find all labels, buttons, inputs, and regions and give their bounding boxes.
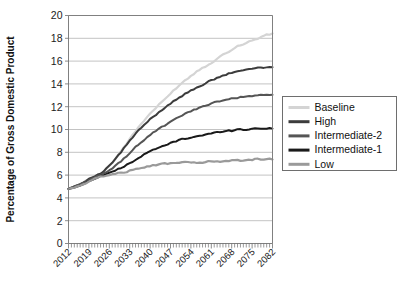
axes: [65, 16, 273, 249]
y-tick-label-16: 16: [51, 55, 63, 67]
y-tick-label-0: 0: [57, 237, 63, 249]
x-tick-label-2054: 2054: [173, 246, 196, 269]
x-tick-label-2012: 2012: [51, 246, 74, 269]
x-tick-label-group-2040: 2040: [132, 246, 155, 269]
x-tick-label-group-2054: 2054: [173, 246, 196, 269]
x-tick-label-2033: 2033: [112, 246, 135, 269]
x-tick-label-group-2033: 2033: [112, 246, 135, 269]
y-axis-title: Percentage of Gross Domestic Product: [5, 36, 16, 223]
x-tick-label-2061: 2061: [193, 246, 216, 269]
x-tick-label-group-2012: 2012: [51, 246, 74, 269]
y-tick-label-20: 20: [51, 9, 63, 21]
x-tick-label-2040: 2040: [132, 246, 155, 269]
x-tick-label-group-2026: 2026: [91, 246, 114, 269]
y-axis-title-text: Percentage of Gross Domestic Product: [5, 36, 16, 223]
legend-label-intermediate-2: Intermediate-2: [315, 129, 383, 141]
x-tick-label-2019: 2019: [71, 246, 94, 269]
x-tick-label-group-2068: 2068: [214, 246, 237, 269]
y-axis-tick-labels: 02468101214161820: [51, 9, 63, 249]
x-tick-label-2026: 2026: [91, 246, 114, 269]
grid-lines: [69, 16, 273, 221]
y-tick-label-6: 6: [57, 169, 63, 181]
x-axis-tick-labels: 2012201920262033204020472054206120682075…: [51, 246, 278, 269]
y-tick-label-4: 4: [57, 192, 63, 204]
x-tick-label-group-2082: 2082: [255, 246, 278, 269]
series-line-intermediate-1: [69, 128, 273, 189]
chart-legend: BaselineHighIntermediate-2Intermediate-1…: [283, 97, 397, 171]
x-tick-label-2075: 2075: [234, 246, 257, 269]
y-tick-label-14: 14: [51, 78, 63, 90]
y-axis-title-group: Percentage of Gross Domestic Product: [5, 36, 16, 223]
legend-label-baseline: Baseline: [315, 101, 355, 113]
legend-label-high: High: [315, 115, 337, 127]
x-tick-label-2047: 2047: [153, 246, 176, 269]
series-lines: [69, 33, 273, 188]
x-tick-label-group-2061: 2061: [193, 246, 216, 269]
y-tick-label-8: 8: [57, 146, 63, 158]
chart-container: 02468101214161820 2012201920262033204020…: [0, 0, 402, 304]
legend-label-intermediate-1: Intermediate-1: [315, 143, 383, 155]
y-tick-label-10: 10: [51, 123, 63, 135]
line-chart: 02468101214161820 2012201920262033204020…: [0, 0, 402, 304]
x-tick-label-group-2075: 2075: [234, 246, 257, 269]
x-tick-label-group-2019: 2019: [71, 246, 94, 269]
x-tick-label-2082: 2082: [255, 246, 278, 269]
series-line-high: [69, 67, 273, 189]
x-tick-label-2068: 2068: [214, 246, 237, 269]
x-tick-label-group-2047: 2047: [153, 246, 176, 269]
y-tick-label-18: 18: [51, 32, 63, 44]
y-tick-label-2: 2: [57, 215, 63, 227]
series-line-baseline: [69, 33, 273, 188]
y-tick-label-12: 12: [51, 101, 63, 113]
legend-label-low: Low: [315, 158, 335, 170]
